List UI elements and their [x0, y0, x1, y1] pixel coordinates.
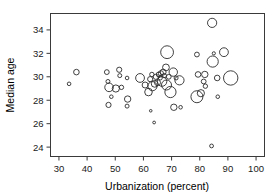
data-bubble: [104, 70, 109, 75]
data-bubble: [125, 76, 129, 80]
data-bubble: [208, 18, 217, 27]
data-bubble: [117, 67, 122, 72]
data-bubble: [161, 46, 174, 59]
data-bubble: [220, 48, 229, 57]
data-bubble: [145, 88, 153, 96]
data-bubble: [149, 109, 152, 112]
data-bubble: [110, 95, 114, 99]
data-bubble: [179, 105, 183, 109]
data-bubble: [224, 71, 238, 85]
data-bubble: [216, 95, 220, 99]
data-bubble: [118, 74, 122, 78]
data-bubble: [195, 72, 201, 78]
data-bubble: [74, 69, 80, 75]
x-tick-label: 50: [110, 163, 121, 174]
x-tick-label: 90: [223, 163, 234, 174]
data-bubble: [106, 102, 111, 107]
y-tick-label: 26: [33, 118, 44, 129]
data-bubble: [171, 104, 177, 110]
data-bubble: [136, 74, 145, 83]
x-tick-label: 30: [54, 163, 65, 174]
data-bubble: [195, 52, 200, 57]
y-tick-label: 30: [33, 71, 44, 82]
data-bubble: [212, 52, 215, 55]
data-bubble: [201, 79, 206, 84]
data-bubbles: [67, 18, 238, 148]
x-tick-label: 100: [248, 163, 264, 174]
y-axis-title: Median age: [4, 57, 16, 112]
y-axis: 242628303234: [33, 24, 51, 152]
data-bubble: [169, 68, 177, 76]
scatter-plot-canvas: 242628303234 30405060708090100 Urbanizat…: [0, 0, 278, 195]
x-tick-label: 60: [138, 163, 149, 174]
x-axis-title: Urbanization (percent): [105, 180, 209, 192]
data-bubble: [214, 75, 220, 81]
data-bubble: [153, 121, 156, 124]
data-bubble: [163, 64, 170, 71]
data-bubble: [207, 56, 218, 67]
data-bubble: [119, 85, 123, 89]
y-tick-label: 34: [33, 24, 44, 35]
x-axis: 30405060708090100: [54, 157, 264, 174]
bubble-chart-figure: 242628303234 30405060708090100 Urbanizat…: [0, 0, 278, 195]
data-bubble: [142, 82, 148, 88]
data-bubble: [124, 96, 130, 102]
data-bubble: [203, 84, 207, 88]
y-tick-label: 32: [33, 48, 44, 59]
data-bubble: [148, 77, 153, 82]
data-bubble: [67, 82, 71, 86]
y-tick-label: 24: [33, 142, 44, 153]
x-tick-label: 80: [194, 163, 205, 174]
data-bubble: [125, 104, 129, 108]
data-bubble: [197, 90, 204, 97]
data-bubble: [210, 144, 214, 148]
y-tick-label: 28: [33, 95, 44, 106]
x-tick-label: 70: [166, 163, 177, 174]
x-tick-label: 40: [82, 163, 93, 174]
data-bubble: [202, 71, 208, 77]
